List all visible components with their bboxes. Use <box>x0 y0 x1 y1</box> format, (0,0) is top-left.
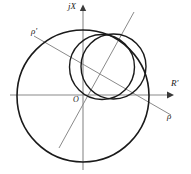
rho-ray-line <box>59 12 134 148</box>
y-axis-arrowhead <box>80 5 86 12</box>
rho-prime-line <box>34 36 171 115</box>
origin-label: O <box>73 96 79 104</box>
x-axis-arrowhead <box>167 92 174 99</box>
figure-canvas <box>0 0 191 174</box>
rho-prime-label: ρ' <box>31 27 37 36</box>
inner-circle-right <box>81 34 146 99</box>
inner-circle-left <box>70 35 135 100</box>
x-axis-label: R' <box>171 79 178 88</box>
y-axis-label: jX <box>68 2 76 11</box>
figure-container: jX R' ρ' ρ O <box>0 0 191 174</box>
rho-label: ρ <box>167 112 171 121</box>
